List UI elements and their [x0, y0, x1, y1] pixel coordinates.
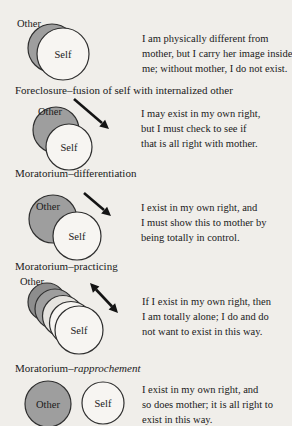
- self-label: Self: [61, 142, 78, 153]
- differentiation-heading: Moratorium–differentiation: [15, 167, 136, 179]
- self-label: Self: [55, 49, 72, 60]
- other-label: Other: [36, 399, 60, 410]
- practicing-diagram: Other Self: [0, 190, 140, 264]
- caption-line: I may exist in my own right,: [141, 106, 260, 121]
- rapprochement-caption: If I exist in my own right, then I am to…: [142, 294, 271, 339]
- rapprochement-heading: Moratorium–rapprochement: [15, 362, 140, 374]
- self-label: Self: [71, 325, 88, 336]
- differentiation-diagram: Other Self: [0, 94, 140, 172]
- foreclosure-caption: I am physically different from mother, b…: [142, 31, 292, 76]
- caption-line: but I must check to see if: [141, 121, 260, 136]
- differentiation-caption: I may exist in my own right, but I must …: [141, 106, 260, 151]
- other-label: Other: [36, 201, 60, 212]
- caption-line: me; without mother, I do not exist.: [142, 61, 292, 76]
- caption-line: exist in this way.: [142, 412, 273, 426]
- caption-line: I must show this to mother by: [141, 215, 266, 230]
- self-label: Self: [95, 398, 112, 409]
- rapprochement-diagram: Other Self: [0, 272, 140, 358]
- figure: Other Self I am physically different fro…: [0, 0, 292, 426]
- double-arrow: [96, 290, 112, 307]
- caption-line: so does mother; it is all right to: [142, 397, 273, 412]
- arrow: [84, 193, 104, 210]
- caption-line: If I exist in my own right, then: [142, 294, 271, 309]
- other-label: Other: [17, 18, 41, 29]
- caption-line: not want to exist in this way.: [142, 324, 271, 339]
- caption-line: I exist in my own right, and: [141, 200, 266, 215]
- self-label: Self: [69, 231, 86, 242]
- foreclosure-diagram: Other Self: [0, 0, 140, 86]
- caption-line: being totally in control.: [141, 230, 266, 245]
- caption-line: mother, but I carry her image inside: [142, 46, 292, 61]
- resolution-diagram: Other Self: [0, 378, 150, 426]
- other-label: Other: [38, 106, 62, 117]
- caption-line: I am totally alone; I do and do: [142, 309, 271, 324]
- heading-prefix: Moratorium–: [15, 362, 74, 374]
- caption-line: I am physically different from: [142, 31, 292, 46]
- practicing-heading: Moratorium–practicing: [15, 260, 118, 272]
- practicing-caption: I exist in my own right, and I must show…: [141, 200, 266, 245]
- arrow: [74, 99, 102, 123]
- caption-line: that is all right with mother.: [141, 136, 260, 151]
- resolution-caption: I exist in my own right, and so does mot…: [142, 382, 273, 426]
- heading-italic: rapprochement: [74, 362, 141, 374]
- caption-line: I exist in my own right, and: [142, 382, 273, 397]
